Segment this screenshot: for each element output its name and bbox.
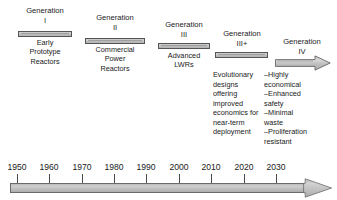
axis-tick-2000 bbox=[179, 174, 180, 183]
axis-year-label-1970: 1970 bbox=[66, 162, 98, 172]
axis-year-label-2010: 2010 bbox=[195, 162, 227, 172]
timeline-arrowhead-icon bbox=[303, 178, 333, 198]
generation-3-plus-detail-text: Evolutionary designs offering improved e… bbox=[213, 70, 265, 137]
generation-2-title: GenerationII bbox=[78, 13, 152, 32]
generation-2-bar bbox=[85, 38, 145, 44]
generation-1-title: GenerationI bbox=[8, 6, 82, 25]
generation-2-caption: Commercial Power Reactors bbox=[78, 45, 152, 73]
generation-3-plus-title-line1: Generation bbox=[223, 29, 261, 38]
axis-year-label-2030: 2030 bbox=[260, 162, 292, 172]
axis-tick-2020 bbox=[244, 174, 245, 183]
generation-4-bullet-0: –Highly economical bbox=[264, 70, 332, 89]
axis-year-label-1960: 1960 bbox=[33, 162, 65, 172]
axis-tick-1950 bbox=[17, 174, 18, 183]
generation-3-plus-bar bbox=[215, 52, 268, 58]
generation-3-plus-title-line2: III+ bbox=[237, 39, 248, 48]
axis-tick-2030 bbox=[276, 174, 277, 183]
axis-tick-1980 bbox=[114, 174, 115, 183]
generation-3-bar bbox=[158, 43, 210, 49]
reactor-generations-timeline-figure: GenerationI Early Prototype Reactors Gen… bbox=[0, 0, 337, 200]
generation-4-title-line1: Generation bbox=[283, 37, 321, 46]
axis-year-label-1980: 1980 bbox=[98, 162, 130, 172]
generation-4-title: GenerationIV bbox=[266, 37, 337, 56]
generation-4-bullet-2: –Minimal waste bbox=[264, 108, 332, 127]
generation-2-title-line1: Generation bbox=[96, 13, 134, 22]
generation-4-bullet-1: –Enhanced safety bbox=[264, 89, 332, 108]
generation-3-caption: Advanced LWRs bbox=[148, 51, 220, 70]
timeline-axis-bar bbox=[10, 183, 307, 193]
axis-year-label-1950: 1950 bbox=[1, 162, 33, 172]
generation-4-arrow bbox=[275, 55, 331, 71]
generation-3-title-line1: Generation bbox=[165, 20, 203, 29]
generation-1-title-line1: Generation bbox=[26, 6, 64, 15]
generation-1-title-line2: I bbox=[44, 16, 46, 25]
axis-year-label-2000: 2000 bbox=[163, 162, 195, 172]
axis-tick-1960 bbox=[49, 174, 50, 183]
axis-year-label-2020: 2020 bbox=[228, 162, 260, 172]
generation-2-title-line2: II bbox=[113, 23, 117, 32]
generation-1-caption: Early Prototype Reactors bbox=[8, 38, 82, 66]
axis-tick-1970 bbox=[82, 174, 83, 183]
generation-4-bullet-3: –Proliferation resistant bbox=[264, 127, 332, 146]
generation-1-bar bbox=[18, 31, 72, 37]
axis-tick-2010 bbox=[211, 174, 212, 183]
generation-3-title-line2: III bbox=[181, 30, 187, 39]
axis-year-label-1990: 1990 bbox=[130, 162, 162, 172]
axis-tick-1990 bbox=[146, 174, 147, 183]
